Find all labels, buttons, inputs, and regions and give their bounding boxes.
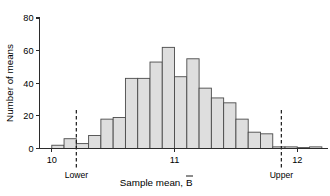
histogram-bar xyxy=(187,59,199,149)
histogram-bar xyxy=(175,77,187,149)
histogram-bar xyxy=(101,119,113,148)
lower-limit-label: Lower xyxy=(65,170,89,180)
histogram-bar xyxy=(113,118,125,149)
histogram-bar xyxy=(211,98,223,149)
y-axis-ticks: 020406080 xyxy=(23,13,39,154)
histogram-bar xyxy=(260,134,272,149)
histogram-bar xyxy=(162,47,174,148)
histogram-bar xyxy=(89,135,101,148)
y-tick-label: 60 xyxy=(23,46,33,56)
histogram-plot: 020406080 Number of means 101112 Sample … xyxy=(0,0,330,196)
x-axis: 101112 Sample mean, B xyxy=(40,149,329,189)
x-axis-title-text: Sample mean, xyxy=(120,177,183,188)
histogram-bar xyxy=(248,132,260,148)
y-tick-label: 80 xyxy=(23,13,33,23)
histogram-bar xyxy=(76,144,88,149)
x-axis-ticks: 101112 xyxy=(47,149,303,165)
x-axis-title: Sample mean, B xyxy=(120,176,193,188)
y-axis: 020406080 Number of means xyxy=(4,13,40,154)
x-axis-title-symbol: B xyxy=(186,177,193,188)
y-tick-label: 20 xyxy=(23,111,33,121)
histogram-chart: 020406080 Number of means 101112 Sample … xyxy=(0,0,330,196)
histogram-bar xyxy=(199,88,211,148)
plot-bars xyxy=(52,47,322,148)
histogram-bar xyxy=(224,103,236,149)
x-tick-label: 11 xyxy=(170,155,180,165)
upper-limit-label: Upper xyxy=(270,170,294,180)
y-axis-title: Number of means xyxy=(4,44,15,122)
histogram-bar xyxy=(236,119,248,148)
histogram-bar xyxy=(125,78,137,148)
x-tick-label: 10 xyxy=(47,155,57,165)
y-tick-label: 40 xyxy=(23,79,33,89)
y-tick-label: 0 xyxy=(28,144,33,154)
histogram-bar xyxy=(138,78,150,148)
histogram-bar xyxy=(64,139,76,149)
x-tick-label: 12 xyxy=(292,155,302,165)
histogram-bar xyxy=(150,62,162,148)
